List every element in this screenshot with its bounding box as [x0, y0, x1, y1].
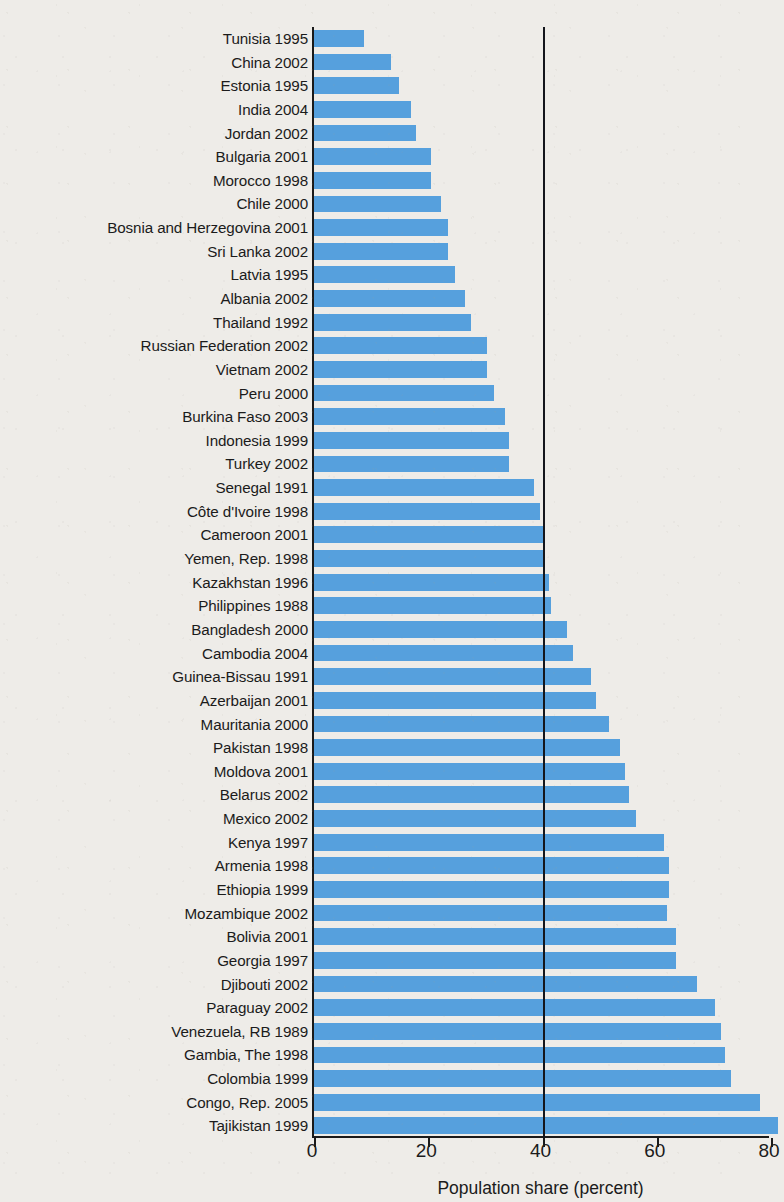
bar	[314, 550, 545, 567]
bar	[314, 574, 549, 591]
bar	[314, 739, 620, 756]
bar	[314, 54, 391, 71]
bar	[314, 999, 715, 1016]
bar	[314, 266, 455, 283]
bar	[314, 668, 591, 685]
bar	[314, 314, 471, 331]
bar	[314, 526, 544, 543]
x-tick-label: 20	[396, 1140, 456, 1162]
bar-row: Guinea-Bissau 1991	[314, 665, 769, 689]
bar-row: Cameroon 2001	[314, 523, 769, 547]
bar-row: Mozambique 2002	[314, 902, 769, 926]
category-label: Philippines 1988	[198, 594, 314, 618]
category-label: Cameroon 2001	[200, 523, 314, 547]
category-label: Belarus 2002	[220, 783, 314, 807]
bar	[314, 337, 487, 354]
bar-row: Bolivia 2001	[314, 925, 769, 949]
horizontal-bar-chart: Tunisia 1995China 2002Estonia 1995India …	[40, 16, 784, 1202]
category-label: Tajikistan 1999	[209, 1114, 314, 1138]
category-label: China 2002	[231, 51, 314, 75]
bar	[314, 172, 431, 189]
bar	[314, 692, 596, 709]
bar-row: Gambia, The 1998	[314, 1043, 769, 1067]
bar-row: Pakistan 1998	[314, 736, 769, 760]
category-label: Sri Lanka 2002	[207, 240, 314, 264]
bar	[314, 1117, 778, 1134]
category-label: Estonia 1995	[221, 74, 314, 98]
category-label: Yemen, Rep. 1998	[184, 547, 314, 571]
bar-row: Bulgaria 2001	[314, 145, 769, 169]
category-label: Bulgaria 2001	[216, 145, 314, 169]
bars-layer: Tunisia 1995China 2002Estonia 1995India …	[314, 27, 769, 1136]
bar	[314, 857, 669, 874]
category-label: Colombia 1999	[207, 1067, 314, 1091]
bar-row: Belarus 2002	[314, 783, 769, 807]
category-label: Jordan 2002	[225, 122, 314, 146]
bar-row: Turkey 2002	[314, 452, 769, 476]
bar-row: Congo, Rep. 2005	[314, 1091, 769, 1115]
category-label: Guinea-Bissau 1991	[172, 665, 314, 689]
x-axis-title: Population share (percent)	[312, 1178, 769, 1199]
bar	[314, 432, 509, 449]
bar-row: Georgia 1997	[314, 949, 769, 973]
bar-row: Latvia 1995	[314, 263, 769, 287]
category-label: Indonesia 1999	[206, 429, 314, 453]
category-label: Thailand 1992	[213, 311, 314, 335]
bar	[314, 290, 465, 307]
bar-row: Tunisia 1995	[314, 27, 769, 51]
category-label: Burkina Faso 2003	[182, 405, 314, 429]
bar	[314, 1070, 731, 1087]
bar	[314, 101, 411, 118]
bar-row: Venezuela, RB 1989	[314, 1020, 769, 1044]
bar	[314, 1023, 721, 1040]
category-label: Azerbaijan 2001	[200, 689, 314, 713]
category-label: Venezuela, RB 1989	[171, 1020, 314, 1044]
bar	[314, 148, 431, 165]
bar	[314, 1094, 760, 1111]
bar-row: Thailand 1992	[314, 311, 769, 335]
category-label: Bolivia 2001	[226, 925, 314, 949]
category-label: Peru 2000	[239, 382, 314, 406]
category-label: Moldova 2001	[214, 760, 314, 784]
bar-row: Jordan 2002	[314, 122, 769, 146]
bar	[314, 219, 448, 236]
category-label: Mozambique 2002	[185, 902, 314, 926]
bar-row: Indonesia 1999	[314, 429, 769, 453]
bar-row: Djibouti 2002	[314, 973, 769, 997]
bar	[314, 30, 364, 47]
category-label: Morocco 1998	[213, 169, 314, 193]
bar-row: Peru 2000	[314, 382, 769, 406]
bar	[314, 976, 697, 993]
bar-row: Bosnia and Herzegovina 2001	[314, 216, 769, 240]
bar-row: Yemen, Rep. 1998	[314, 547, 769, 571]
bar-row: Moldova 2001	[314, 760, 769, 784]
reference-line-40	[543, 27, 545, 1138]
bar	[314, 408, 505, 425]
category-label: Gambia, The 1998	[184, 1043, 314, 1067]
bar	[314, 503, 540, 520]
x-tick-label: 0	[282, 1140, 342, 1162]
category-label: Turkey 2002	[225, 452, 314, 476]
category-label: Georgia 1997	[217, 949, 314, 973]
bar-row: Paraguay 2002	[314, 996, 769, 1020]
bar-row: Bangladesh 2000	[314, 618, 769, 642]
category-label: Paraguay 2002	[206, 996, 314, 1020]
bar	[314, 810, 636, 827]
category-label: Djibouti 2002	[221, 973, 314, 997]
bar-row: Albania 2002	[314, 287, 769, 311]
bar-row: Chile 2000	[314, 192, 769, 216]
bar	[314, 77, 399, 94]
bar-row: Colombia 1999	[314, 1067, 769, 1091]
bar-row: India 2004	[314, 98, 769, 122]
bar	[314, 716, 609, 733]
bar-row: Côte d'Ivoire 1998	[314, 500, 769, 524]
bar-row: Mauritania 2000	[314, 713, 769, 737]
bar-row: Kazakhstan 1996	[314, 571, 769, 595]
category-label: Bangladesh 2000	[191, 618, 314, 642]
bar	[314, 1047, 725, 1064]
category-label: Armenia 1998	[215, 854, 314, 878]
category-label: Tunisia 1995	[223, 27, 314, 51]
category-label: Mauritania 2000	[201, 713, 314, 737]
category-label: Congo, Rep. 2005	[186, 1091, 314, 1115]
bar	[314, 881, 669, 898]
